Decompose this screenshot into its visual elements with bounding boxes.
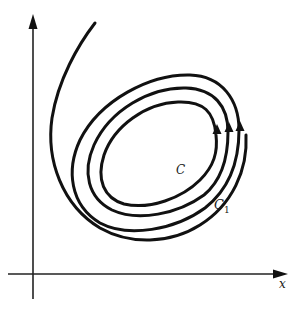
y-axis [29,14,38,299]
arrow-up-icon [236,121,245,131]
diagram-figure: x C C1 [0,0,294,310]
x-axis [8,270,288,279]
arrow-up-icon [225,122,234,132]
diagram-canvas: x C C1 [0,0,294,310]
label-c: C [176,163,185,177]
y-axis-arrowhead-icon [29,14,38,29]
label-c1-subscript: 1 [224,205,230,215]
x-axis-label: x [279,277,286,291]
orbit-c [101,102,217,206]
label-c1-main: C [214,197,224,212]
